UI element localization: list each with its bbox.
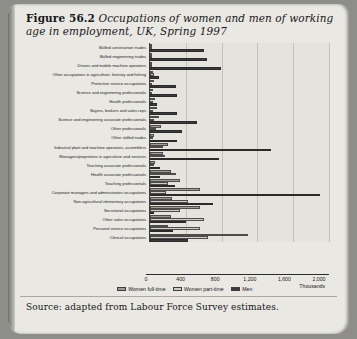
chart-row: Skilled construction trades (18, 43, 329, 52)
category-label: Personal service occupations (18, 224, 149, 233)
x-tick-label: 2,000 (313, 276, 326, 282)
row-plot (149, 115, 329, 124)
chart-row: Other professionals (18, 124, 329, 133)
row-plot (149, 97, 329, 106)
chart-row: Secretarial occupations (18, 206, 329, 215)
category-label: Industrial plant and machine operators, … (18, 143, 149, 152)
chart-row: Clerical occupations (18, 233, 329, 242)
chart-row: Skilled engineering trades (18, 52, 329, 61)
category-label: Science and engineering associate profes… (18, 115, 149, 124)
divider (20, 296, 337, 297)
legend-swatch-wft (117, 287, 126, 292)
bar-group (150, 197, 329, 205)
row-plot (149, 152, 329, 161)
chart-rows: Skilled construction tradesSkilled engin… (18, 43, 329, 275)
x-axis-unit-label: Thousands (299, 283, 325, 289)
row-plot (149, 170, 329, 179)
figure-title: Figure 56.2 Occupations of women and men… (26, 12, 339, 38)
bar-men (150, 239, 188, 242)
row-plot (149, 88, 329, 97)
bar-group (150, 234, 329, 242)
category-label: Clerical occupations (18, 233, 149, 242)
chart-row: Other skilled trades (18, 133, 329, 142)
category-label: Other skilled trades (18, 133, 149, 142)
bar-group (150, 215, 329, 223)
bar-group (150, 179, 329, 187)
bar-group (150, 161, 329, 169)
chart-row: Drivers and mobile machine operators (18, 61, 329, 70)
category-label: Teaching associate professionals (18, 161, 149, 170)
bar-group (150, 125, 329, 133)
category-label: Buyers, brokers and sales reps (18, 106, 149, 115)
bar-group (150, 89, 329, 97)
chart-row: Non-agricultural elementary occupations (18, 197, 329, 206)
bar-group (150, 71, 329, 79)
category-label: Non-agricultural elementary occupations (18, 197, 149, 206)
chart-row: Managers/proprietors in agriculture and … (18, 152, 329, 161)
figure-number: Figure 56.2 (26, 12, 95, 24)
chart-row: Buyers, brokers and sales reps (18, 106, 329, 115)
legend-swatch-wpt (173, 287, 182, 292)
chart-row: Other sales occupations (18, 215, 329, 224)
row-plot (149, 61, 329, 70)
category-label: Drivers and mobile machine operators (18, 61, 149, 70)
row-plot (149, 206, 329, 215)
row-plot (149, 197, 329, 206)
chart-row: Science and engineering professionals (18, 88, 329, 97)
row-plot (149, 233, 329, 242)
row-plot (149, 124, 329, 133)
chart-row: Industrial plant and machine operators, … (18, 143, 329, 152)
row-plot (149, 43, 329, 52)
row-plot (149, 52, 329, 61)
chart-row: Protective service occupations (18, 79, 329, 88)
bar-wpt (150, 209, 180, 212)
bar-group (150, 134, 329, 142)
bar-group (150, 116, 329, 124)
category-label: Managers/proprietors in agriculture and … (18, 152, 149, 161)
category-label: Protective service occupations (18, 79, 149, 88)
x-axis-ticks: Thousands 04008001,2001,6002,000 (18, 275, 329, 287)
bar-group (150, 62, 329, 70)
source-note: Source: adapted from Labour Force Survey… (26, 302, 345, 312)
bar-group (150, 152, 329, 160)
chart-row: Science and engineering associate profes… (18, 115, 329, 124)
figure-card: Figure 56.2 Occupations of women and men… (8, 4, 349, 334)
row-plot (149, 215, 329, 224)
book-spine (8, 4, 15, 334)
bar-group (150, 44, 329, 52)
bar-group (150, 107, 329, 115)
category-label: Science and engineering professionals (18, 88, 149, 97)
bar-group (150, 143, 329, 151)
bar-group (150, 80, 329, 88)
chart-row: Health professionals (18, 97, 329, 106)
x-tick-label: 800 (211, 276, 220, 282)
category-label: Health professionals (18, 97, 149, 106)
row-plot (149, 106, 329, 115)
category-label: Other occupations in agriculture, forest… (18, 70, 149, 79)
chart-row: Teaching associate professionals (18, 161, 329, 170)
row-plot (149, 161, 329, 170)
chart-row: Teaching professionals (18, 179, 329, 188)
category-label: Other professionals (18, 124, 149, 133)
chart-plot-area: Skilled construction tradesSkilled engin… (18, 43, 339, 275)
category-label: Skilled engineering trades (18, 52, 149, 61)
bar-group (150, 206, 329, 214)
category-label: Corporate managers and administrators oc… (18, 188, 149, 197)
bar-group (150, 170, 329, 178)
row-plot (149, 79, 329, 88)
x-tick-label: 0 (145, 276, 148, 282)
row-plot (149, 179, 329, 188)
x-tick-label: 400 (176, 276, 185, 282)
chart-row: Health associate professionals (18, 170, 329, 179)
row-plot (149, 224, 329, 233)
x-tick-label: 1,600 (278, 276, 291, 282)
bar-group (150, 225, 329, 233)
chart-row: Corporate managers and administrators oc… (18, 188, 329, 197)
row-plot (149, 143, 329, 152)
category-label: Other sales occupations (18, 215, 149, 224)
row-plot (149, 188, 329, 197)
chart-row: Personal service occupations (18, 224, 329, 233)
bar-group (150, 188, 329, 196)
category-label: Teaching professionals (18, 179, 149, 188)
category-label: Secretarial occupations (18, 206, 149, 215)
